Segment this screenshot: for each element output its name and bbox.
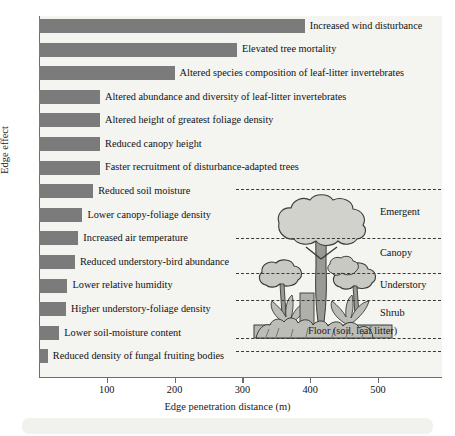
bar-row: Altered height of greatest foliage densi… [39, 113, 273, 127]
bar [39, 66, 175, 80]
bar-row: Reduced understory-bird abundance [39, 255, 229, 269]
bar-label: Lower canopy-foliage density [82, 210, 211, 220]
bar [39, 349, 48, 363]
bar [39, 137, 100, 151]
bar-label: Altered abundance and diversity of leaf-… [100, 92, 346, 102]
bar-label: Reduced understory-bird abundance [75, 257, 229, 267]
bar-label: Lower relative humidity [67, 280, 172, 290]
bar [39, 90, 100, 104]
bar [39, 279, 67, 293]
x-axis-tick-label: 300 [235, 384, 250, 395]
x-axis-tick-label: 200 [167, 384, 182, 395]
bar [39, 255, 75, 269]
x-axis-tick [310, 378, 311, 383]
layer-label-floor: Floor (soil, leaf litter) [308, 325, 397, 336]
layer-divider-canopy-understory [236, 273, 441, 274]
bar-row: Altered abundance and diversity of leaf-… [39, 90, 346, 104]
layer-divider-emergent-canopy [236, 238, 441, 239]
bar-label: Faster recruitment of disturbance-adapte… [100, 162, 299, 172]
bar-row: Faster recruitment of disturbance-adapte… [39, 161, 299, 175]
bar [39, 208, 82, 222]
x-axis-tick [242, 378, 243, 383]
bar-label: Reduced soil moisture [93, 186, 190, 196]
bar [39, 161, 100, 175]
layer-label-canopy: Canopy [380, 247, 412, 258]
layer-divider-shrub-floor [236, 338, 441, 339]
x-axis-tick-label: 100 [99, 384, 114, 395]
bar-row: Altered species composition of leaf-litt… [39, 66, 404, 80]
bar-row: Reduced soil moisture [39, 184, 190, 198]
bar [39, 113, 100, 127]
edge-effect-bar-chart-figure: Edge effect Increased wind disturbanceEl… [0, 0, 455, 436]
bar-label: Altered species composition of leaf-litt… [175, 68, 404, 78]
bar [39, 19, 305, 33]
layer-label-emergent: Emergent [380, 206, 420, 217]
layer-label-shrub: Shrub [380, 307, 405, 318]
layer-divider-bottom [236, 351, 441, 352]
bar [39, 43, 237, 57]
bar-row: Increased air temperature [39, 231, 188, 245]
bar-label: Altered height of greatest foliage densi… [100, 115, 273, 125]
bar [39, 184, 93, 198]
bar-label: Increased air temperature [78, 233, 188, 243]
bar-label: Reduced density of fungal fruiting bodie… [48, 351, 224, 361]
x-axis-tick [378, 378, 379, 383]
bar-label: Higher understory-foliage density [66, 304, 211, 314]
bar-row: Elevated tree mortality [39, 43, 336, 57]
bar-row: Lower soil-moisture content [39, 326, 181, 340]
x-axis-tick [107, 378, 108, 383]
y-axis-title: Edge effect [0, 20, 10, 150]
bar-row: Lower relative humidity [39, 279, 173, 293]
bar [39, 326, 59, 340]
x-axis-tick-label: 500 [370, 384, 385, 395]
bar-row: Increased wind disturbance [39, 19, 422, 33]
bar-label: Reduced canopy height [100, 139, 202, 149]
bar-label: Elevated tree mortality [237, 44, 336, 54]
bar [39, 302, 66, 316]
caption-strip [22, 418, 433, 434]
bar-row: Higher understory-foliage density [39, 302, 211, 316]
layer-divider-top [236, 189, 441, 190]
bar-row: Lower canopy-foliage density [39, 208, 211, 222]
bar-row: Reduced canopy height [39, 137, 202, 151]
x-axis-title: Edge penetration distance (m) [0, 401, 455, 412]
bar-label: Lower soil-moisture content [59, 328, 181, 338]
layer-label-understory: Understory [380, 279, 426, 290]
x-axis-tick-label: 400 [302, 384, 317, 395]
bar-row: Reduced density of fungal fruiting bodie… [39, 349, 224, 363]
layer-divider-understory-shrub [236, 300, 441, 301]
bar [39, 231, 78, 245]
bar-label: Increased wind disturbance [305, 21, 423, 31]
x-axis-tick [175, 378, 176, 383]
y-axis-title-text: Edge effect [0, 126, 10, 174]
rainforest-structure-inset: Emergent Canopy Understory Shrub Floor (… [236, 189, 441, 355]
